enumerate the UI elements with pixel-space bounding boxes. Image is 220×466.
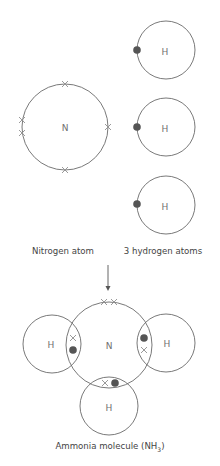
- hydrogen-electron-dot-icon: [133, 200, 141, 208]
- molecule-hydrogen-left-symbol: H: [48, 340, 55, 350]
- hydrogen-atoms-caption: 3 hydrogen atoms: [124, 246, 203, 256]
- caption-end: ): [161, 441, 164, 451]
- ammonia-molecule-caption: Ammonia molecule (NH3): [55, 441, 164, 452]
- molecule-nitrogen-symbol: N: [106, 341, 113, 351]
- reaction-arrow-down-icon: [106, 265, 111, 291]
- molecule-hydrogen-right-symbol: H: [164, 339, 171, 349]
- shared-pair-cross-icon: [141, 347, 147, 353]
- molecule-hydrogen-bottom-symbol: H: [106, 403, 113, 413]
- hydrogen-symbol: H: [162, 202, 169, 212]
- hydrogen-electron-dot-icon: [133, 46, 141, 54]
- hydrogen-symbol: H: [162, 47, 169, 57]
- shared-pair-cross-icon: [70, 335, 76, 341]
- nitrogen-atom: N: [19, 81, 111, 173]
- shared-pair-cross-icon: [102, 380, 108, 386]
- diagram-canvas: N H H: [0, 0, 220, 466]
- hydrogen-symbol: H: [162, 124, 169, 134]
- hydrogen-electron-dot-icon: [133, 123, 141, 131]
- nitrogen-atom-caption: Nitrogen atom: [32, 246, 94, 256]
- nitrogen-symbol: N: [62, 123, 69, 133]
- caption-main: Ammonia molecule (NH: [55, 441, 157, 451]
- ammonia-bonding-diagram: N H H: [0, 0, 220, 466]
- ammonia-molecule: N H H H: [23, 299, 195, 435]
- shared-pair-dot-icon: [111, 379, 119, 387]
- hydrogen-atom-3: H: [133, 176, 195, 234]
- shared-pair-dot-icon: [140, 334, 148, 342]
- hydrogen-atom-1: H: [133, 21, 195, 79]
- hydrogen-atom-2: H: [133, 98, 195, 156]
- shared-pair-dot-icon: [69, 346, 77, 354]
